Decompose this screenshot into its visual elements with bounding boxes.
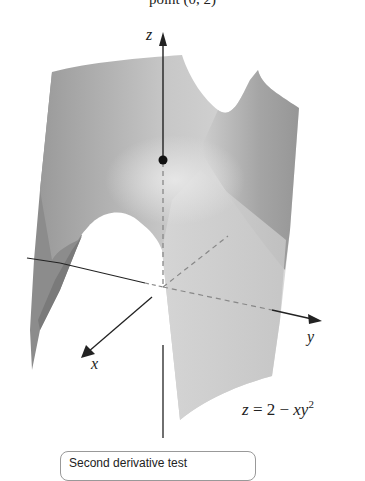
saddle-point-marker: [159, 156, 168, 165]
bottom-caption-box: Second derivative test: [60, 451, 256, 481]
equation-middle: = 2 −: [249, 400, 294, 419]
y-axis-arrow: [308, 314, 322, 324]
surface-equation: z = 2 − xy2: [242, 398, 314, 420]
x-axis: [88, 297, 152, 352]
equation-x: x: [293, 400, 301, 419]
z-axis-label: z: [146, 26, 152, 44]
x-axis-label: x: [91, 355, 98, 373]
z-axis-arrow: [159, 32, 167, 46]
equation-z: z: [242, 400, 249, 419]
y-axis-label: y: [307, 328, 314, 346]
equation-exponent: 2: [308, 398, 314, 410]
